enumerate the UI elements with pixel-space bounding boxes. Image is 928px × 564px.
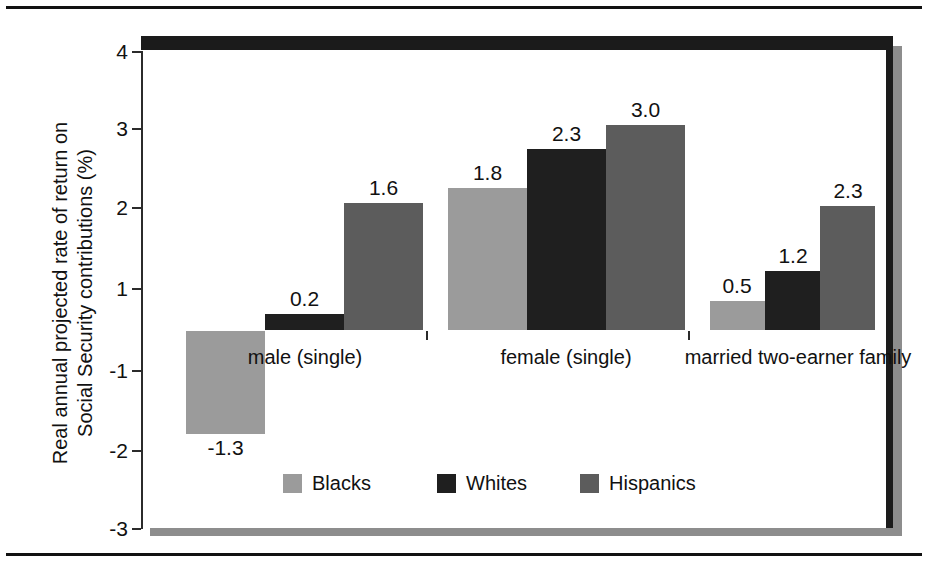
legend-item-hispanics[interactable]: Hispanics [580,470,696,496]
bar-married-hispanics[interactable] [820,206,875,330]
bar-married-whites[interactable] [765,271,820,330]
value-label-female-blacks: 1.8 [448,162,527,183]
legend-item-blacks[interactable]: Blacks [283,470,371,496]
y-tick-mark-1 [132,288,141,290]
y-tick-mark-minus-1 [132,370,141,372]
y-tick-mark-2 [132,207,141,209]
x-category-label-female: female (single) [446,347,686,367]
y-tick-label-3: 3 [88,118,128,139]
legend-label-hispanics: Hispanics [609,473,696,493]
legend-swatch-whites-icon [437,474,456,493]
x-tick-mark-1 [426,331,428,340]
value-label-married-blacks: 0.5 [706,275,768,296]
bar-male-whites[interactable] [265,314,344,330]
y-tick-label-2: 2 [88,197,128,218]
x-category-label-male: male (single) [185,347,425,367]
y-tick-label-1: 1 [88,278,128,299]
y-tick-mark-4 [132,51,141,53]
legend-label-whites: Whites [466,473,527,493]
value-label-male-blacks: -1.3 [186,437,265,458]
legend-item-whites[interactable]: Whites [437,470,527,496]
legend-label-blacks: Blacks [312,473,371,493]
figure-container: Real annual projected rate of return on … [0,0,928,564]
y-tick-label-4: 4 [88,41,128,62]
value-label-married-whites: 1.2 [762,245,824,266]
value-label-female-whites: 2.3 [527,123,606,144]
bar-female-blacks[interactable] [448,188,527,330]
y-tick-mark-3 [132,128,141,130]
legend-swatch-blacks-icon [283,474,302,493]
y-tick-mark-minus-2 [132,450,141,452]
value-label-male-whites: 0.2 [265,288,344,309]
bar-female-whites[interactable] [527,149,606,330]
bar-male-hispanics[interactable] [344,203,423,330]
y-tick-mark-minus-3 [132,528,141,530]
y-axis-line [141,51,143,529]
top-divider-rule [6,6,922,9]
bar-female-hispanics[interactable] [606,125,685,330]
legend-swatch-hispanics-icon [580,474,599,493]
value-label-married-hispanics: 2.3 [817,180,879,201]
value-label-female-hispanics: 3.0 [606,99,685,120]
legend: Blacks Whites Hispanics [270,470,670,500]
x-tick-mark-2 [688,331,690,340]
y-tick-label-minus-1: -1 [88,360,128,381]
value-label-male-hispanics: 1.6 [344,177,423,198]
y-tick-label-minus-2: -2 [88,440,128,461]
bottom-divider-rule [6,553,922,556]
bar-married-blacks[interactable] [710,301,765,330]
x-category-label-married: married two-earner family [678,347,918,367]
y-tick-label-minus-3: -3 [88,518,128,539]
